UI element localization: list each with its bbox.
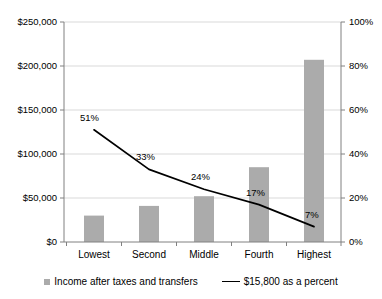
- data-label-fourth: 17%: [246, 188, 265, 198]
- y-right-tick-0: 0%: [349, 237, 363, 247]
- data-label-highest: 7%: [305, 210, 319, 220]
- bar-series: [84, 60, 324, 242]
- data-label-lowest: 51%: [80, 113, 99, 123]
- bar-middle: [194, 196, 214, 242]
- y-left-tick-250000: $250,000: [2, 17, 57, 27]
- y-right-tick-20: 20%: [349, 193, 368, 203]
- y-right-tick-80: 80%: [349, 61, 368, 71]
- legend-line-swatch-icon: [222, 281, 240, 282]
- data-label-second: 33%: [136, 152, 155, 162]
- data-label-middle: 24%: [191, 172, 210, 182]
- y-right-tick-40: 40%: [349, 149, 368, 159]
- y-left-tick-50000: $50,000: [2, 193, 57, 203]
- x-tick-label-fourth: Fourth: [229, 249, 289, 260]
- bar-second: [139, 206, 159, 242]
- bar-lowest: [84, 216, 104, 242]
- legend-label-percent: $15,800 as a percent: [244, 276, 338, 287]
- legend-item-percent[interactable]: $15,800 as a percent: [222, 276, 338, 287]
- y-right-tick-100: 100%: [349, 17, 373, 27]
- y-left-tick-150000: $150,000: [2, 105, 57, 115]
- x-tick-label-lowest: Lowest: [64, 249, 124, 260]
- y-right-tick-60: 60%: [349, 105, 368, 115]
- legend-square-swatch-icon: [44, 279, 50, 285]
- chart-container: $250,000 $200,000 $150,000 $100,000 $50,…: [0, 0, 382, 299]
- x-tick-label-highest: Highest: [284, 249, 344, 260]
- x-tick-label-second: Second: [119, 249, 179, 260]
- legend-label-income: Income after taxes and transfers: [54, 276, 197, 287]
- chart-legend: Income after taxes and transfers $15,800…: [0, 276, 382, 287]
- x-tick-label-middle: Middle: [174, 249, 234, 260]
- legend-item-income[interactable]: Income after taxes and transfers: [44, 276, 197, 287]
- y-left-tick-100000: $100,000: [2, 149, 57, 159]
- y-left-tick-0: $0: [2, 237, 57, 247]
- y-left-tick-200000: $200,000: [2, 61, 57, 71]
